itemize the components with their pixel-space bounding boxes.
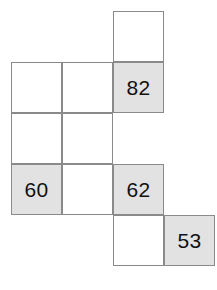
grid-cell-r4-c2[interactable] xyxy=(113,215,164,266)
grid-cell-r3-c1[interactable] xyxy=(62,164,113,215)
grid-cell-r1-c1[interactable] xyxy=(62,62,113,113)
grid-cell-value: 62 xyxy=(127,179,151,200)
grid-cell-value: 53 xyxy=(178,230,202,251)
grid-cell-value: 60 xyxy=(25,179,49,200)
grid-cell-r3-c0[interactable]: 60 xyxy=(11,164,62,215)
grid-cell-r1-c0[interactable] xyxy=(11,62,62,113)
grid-cell-value: 82 xyxy=(127,77,151,98)
grid-cell-r3-c2[interactable]: 62 xyxy=(113,164,164,215)
grid-cell-r0-c2[interactable] xyxy=(113,11,164,62)
grid-cell-r2-c1[interactable] xyxy=(62,113,113,164)
number-grid-puzzle: 82606253 xyxy=(0,0,217,290)
grid-cell-r2-c0[interactable] xyxy=(11,113,62,164)
grid-cell-r1-c2[interactable]: 82 xyxy=(113,62,164,113)
grid-cell-r4-c3[interactable]: 53 xyxy=(164,215,215,266)
